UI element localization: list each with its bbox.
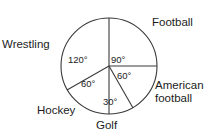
slice-label-american-football-line2: football (155, 92, 192, 104)
slice-label-american-football-line1: American (155, 79, 204, 91)
pie-chart-figure: Wrestling Football Americanfootball Hock… (0, 0, 215, 136)
slice-label-wrestling: Wrestling (2, 38, 50, 51)
slice-label-football: Football (152, 16, 193, 29)
slice-angle-american-football: 60° (117, 71, 131, 81)
slice-angle-hockey: 60° (81, 79, 95, 89)
slice-label-golf: Golf (96, 119, 117, 132)
slice-label-hockey: Hockey (37, 104, 75, 117)
slice-label-american-football: Americanfootball (155, 79, 215, 104)
slice-angle-wrestling: 120° (68, 55, 88, 65)
slice-angle-football: 90° (111, 55, 125, 65)
slice-angle-golf: 30° (103, 97, 117, 107)
